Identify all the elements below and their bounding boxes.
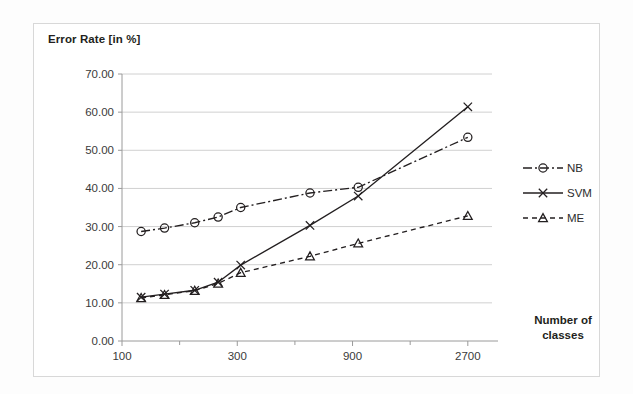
y-tick-label: 50.00 — [56, 144, 114, 156]
y-tick-label: 20.00 — [56, 259, 114, 271]
y-tick-label: 0.00 — [56, 335, 114, 347]
data-point-circle — [214, 213, 222, 221]
series-me — [137, 211, 472, 301]
legend-swatch-me — [521, 209, 565, 227]
data-point-triangle — [463, 211, 472, 219]
series-nb — [137, 133, 472, 235]
legend-label: SVM — [567, 184, 592, 202]
legend-swatch-svm — [521, 184, 565, 202]
series-svm — [137, 103, 472, 302]
x-tick-label: 2700 — [438, 350, 498, 362]
series-line — [141, 137, 468, 231]
legend-swatch-nb — [521, 159, 565, 177]
y-tick-label: 30.00 — [56, 221, 114, 233]
legend-label: NB — [567, 159, 583, 177]
x-axis-title: Number of classes — [517, 313, 609, 343]
legend-label: ME — [567, 209, 584, 227]
x-tick-label: 900 — [323, 350, 383, 362]
x-axis-title-line1: Number of — [534, 314, 592, 326]
x-tick-label: 300 — [207, 350, 267, 362]
x-tick-label: 100 — [92, 350, 152, 362]
y-tick-label: 60.00 — [56, 106, 114, 118]
y-tick-label: 10.00 — [56, 297, 114, 309]
y-tick-label: 70.00 — [56, 68, 114, 80]
x-axis-title-line2: classes — [542, 329, 584, 341]
legend: NBSVMME — [521, 159, 601, 225]
series-line — [141, 107, 468, 297]
chart-figure: Error Rate [in %] 0.0010.0020.0030.0040.… — [0, 0, 633, 394]
y-tick-label: 40.00 — [56, 182, 114, 194]
